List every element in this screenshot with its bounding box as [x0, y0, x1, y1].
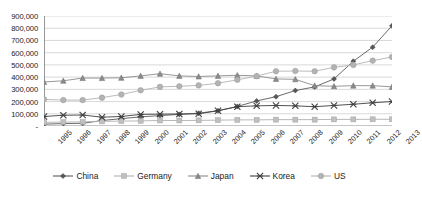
legend-label: Korea [273, 172, 295, 180]
data-point-marker [44, 113, 47, 119]
data-point-marker [235, 117, 240, 122]
square-marker-icon [113, 171, 135, 181]
x-axis: 1995199619971998199920002001200220032004… [44, 128, 392, 162]
data-point-marker [274, 94, 279, 99]
data-point-marker [196, 118, 201, 123]
data-point-marker [331, 65, 337, 71]
diamond-marker-icon [52, 171, 74, 181]
x-tick-label: 2004 [230, 128, 248, 146]
data-point-marker [80, 97, 86, 103]
data-point-marker [254, 98, 259, 103]
data-point-marker [119, 119, 124, 124]
data-point-marker [216, 118, 221, 123]
y-tick-label: 700,000 [11, 36, 38, 45]
data-point-marker [61, 120, 66, 125]
y-tick-label: 400,000 [11, 73, 38, 82]
legend-label: Japan [211, 172, 234, 180]
legend-item-us[interactable]: US [310, 171, 346, 181]
legend-item-china[interactable]: China [52, 171, 98, 181]
data-point-marker [318, 173, 324, 179]
x-tick-label: 1998 [114, 128, 132, 146]
y-tick-label: 100,000 [11, 109, 38, 118]
y-tick-label: 900,000 [11, 12, 38, 21]
data-point-marker [389, 54, 392, 60]
data-point-marker [312, 117, 317, 122]
x-tick-label: 2010 [346, 128, 364, 146]
x-tick-label: 2001 [172, 128, 190, 146]
x-tick-label: 2007 [288, 128, 306, 146]
data-point-marker [350, 101, 356, 107]
data-point-marker [158, 118, 163, 123]
legend-item-japan[interactable]: Japan [187, 171, 234, 181]
x-tick-label: 1995 [56, 128, 74, 146]
circle-marker-icon [310, 171, 332, 181]
series-layer [44, 16, 392, 126]
data-point-marker [312, 68, 318, 74]
data-point-marker [99, 95, 105, 101]
x-tick-label: 1997 [94, 128, 112, 146]
data-point-marker [138, 118, 143, 123]
x-tick-label: 2003 [210, 128, 228, 146]
data-point-marker [235, 77, 241, 83]
data-point-marker [293, 117, 298, 122]
data-point-marker [177, 83, 183, 89]
data-point-marker [293, 88, 298, 93]
data-point-marker [177, 118, 182, 123]
x-tick-label: 2012 [384, 128, 402, 146]
data-point-marker [351, 62, 357, 68]
data-point-marker [80, 119, 85, 124]
data-point-marker [122, 174, 127, 179]
legend-label: US [334, 172, 346, 180]
x-tick-label: 2000 [152, 128, 170, 146]
data-point-marker [370, 117, 375, 122]
x-tick-label: 2013 [404, 128, 422, 146]
data-point-marker [312, 104, 318, 110]
data-point-marker [80, 112, 86, 118]
x-tick-label: 2002 [191, 128, 209, 146]
data-point-marker [293, 68, 299, 74]
data-point-marker [61, 174, 66, 179]
data-point-marker [274, 117, 279, 122]
y-tick-label: 600,000 [11, 48, 38, 57]
data-point-marker [157, 84, 163, 90]
data-point-marker [389, 98, 392, 104]
x-tick-label: 2006 [268, 128, 286, 146]
y-tick-label: 500,000 [11, 60, 38, 69]
data-point-marker [138, 88, 144, 94]
x-tick-label: 2008 [307, 128, 325, 146]
x-tick-label: 1999 [133, 128, 151, 146]
data-point-marker [390, 117, 393, 122]
data-point-marker [370, 100, 376, 106]
x-tick-label: 2011 [365, 128, 383, 146]
data-point-marker [254, 117, 259, 122]
legend-item-germany[interactable]: Germany [113, 171, 171, 181]
triangle-marker-icon [187, 171, 209, 181]
y-axis: -100,000200,000300,000400,000500,000600,… [0, 16, 41, 126]
data-point-marker [215, 80, 221, 86]
data-point-marker [331, 102, 337, 108]
data-point-marker [292, 103, 298, 109]
data-point-marker [44, 97, 47, 103]
data-point-marker [351, 117, 356, 122]
data-point-marker [119, 92, 125, 98]
data-point-marker [61, 97, 67, 103]
x-tick-label: 1996 [75, 128, 93, 146]
data-point-marker [196, 83, 202, 89]
data-point-marker [273, 102, 279, 108]
series-germany [44, 117, 392, 125]
data-point-marker [332, 117, 337, 122]
legend-label: Germany [137, 172, 171, 180]
x-tick-label: 2005 [249, 128, 267, 146]
legend-item-korea[interactable]: Korea [249, 171, 295, 181]
chart-legend: ChinaGermanyJapanKoreaUS [0, 166, 398, 186]
y-tick-label: 200,000 [11, 97, 38, 106]
legend-label: China [76, 172, 98, 180]
x-marker-icon [249, 171, 271, 181]
y-tick-label: 800,000 [11, 24, 38, 33]
data-point-marker [273, 68, 279, 74]
plot-area [44, 16, 392, 126]
x-tick-label: 2009 [326, 128, 344, 146]
y-tick-label: - [35, 122, 38, 131]
data-point-marker [370, 58, 376, 64]
